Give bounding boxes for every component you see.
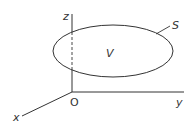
z-axis-label: z xyxy=(62,10,69,23)
surface-volume-diagram: z S V O y x xyxy=(0,0,191,128)
origin-label: O xyxy=(70,96,79,109)
x-axis xyxy=(22,92,72,116)
surface-leader-line xyxy=(156,26,170,34)
y-axis-label: y xyxy=(175,96,183,109)
x-axis-label: x xyxy=(12,111,20,124)
volume-label: V xyxy=(106,47,115,60)
surface-label: S xyxy=(172,19,179,32)
